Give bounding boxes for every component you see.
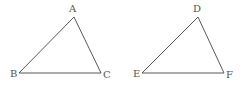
vertex-label-f: F bbox=[226, 69, 233, 80]
vertex-label-a: A bbox=[68, 3, 77, 14]
triangle-def-shape bbox=[142, 17, 224, 73]
triangle-def: D E F bbox=[133, 3, 233, 80]
vertex-label-b: B bbox=[10, 68, 17, 79]
triangle-abc: A B C bbox=[10, 3, 111, 80]
vertex-label-e: E bbox=[133, 68, 140, 79]
vertex-label-c: C bbox=[103, 69, 111, 80]
triangle-abc-shape bbox=[19, 17, 101, 73]
vertex-label-d: D bbox=[193, 3, 201, 14]
triangles-diagram: A B C D E F bbox=[0, 0, 242, 85]
